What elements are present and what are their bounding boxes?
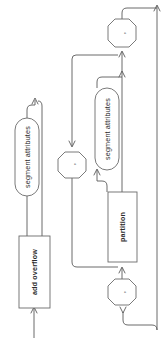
node-segment-attributes-2[interactable]: segment attributes [95,88,119,170]
node-comma-2[interactable]: , [108,279,136,305]
railroad-diagram: add overflow segment attributes , segmen… [0,0,166,339]
edge-to-seg2 [97,170,107,192]
add-overflow-label: add overflow [30,249,39,295]
segment-attributes-2-label: segment attributes [103,98,112,160]
edge-comma3-out [122,8,157,19]
node-segment-attributes-1[interactable]: segment attributes [15,118,39,196]
comma-2-label: , [118,291,127,293]
edge-trunk-to-comma1 [72,55,118,59]
node-comma-1[interactable]: , [58,152,86,178]
diagram-canvas: add overflow segment attributes , segmen… [0,0,166,339]
node-add-overflow[interactable]: add overflow [19,236,50,308]
node-comma-3[interactable]: , [108,19,136,47]
segment-attributes-1-label: segment attributes [23,126,32,188]
edge-seg2-out [97,77,122,88]
node-partition[interactable]: partition [108,192,137,262]
arrowhead-comma2-in [120,307,126,313]
partition-label: partition [118,212,127,242]
comma-3-label: , [118,32,127,34]
edge-return-to-comma2 [123,312,157,330]
edge-seg1-out [27,100,35,118]
comma-1-label: , [68,163,77,165]
